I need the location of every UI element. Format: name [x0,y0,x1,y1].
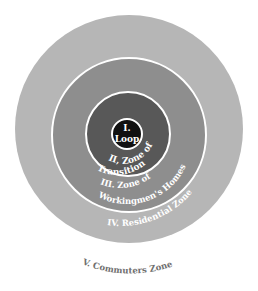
zone-i-label-line2: Loop [115,134,140,144]
zone-i-label-line1: I. [123,123,130,133]
zone-v-label: V. Commuters Zone [80,256,174,275]
concentric-zone-diagram: I. Loop II, Zone of Transition III. Zone… [0,0,258,291]
